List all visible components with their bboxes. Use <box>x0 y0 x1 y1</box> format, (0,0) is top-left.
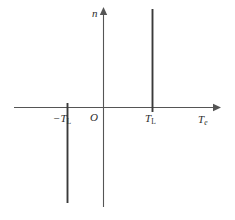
y-axis-arrow-icon <box>100 7 107 15</box>
y-axis-label: n <box>92 8 98 19</box>
x-axis <box>14 104 221 111</box>
x-tick-positive-TL-subscript: L <box>151 117 156 126</box>
figure-container: n O −TL TL Te <box>0 0 235 220</box>
x-tick-negative-TL-symbol: −T <box>53 112 67 124</box>
x-tick-negative-TL-subscript: L <box>67 117 72 126</box>
plot-area <box>0 0 235 220</box>
x-axis-label: Te <box>198 114 207 127</box>
x-tick-label-negative-TL: −TL <box>53 113 71 126</box>
x-axis-arrow-icon <box>213 104 221 111</box>
origin-label: O <box>90 112 98 123</box>
x-tick-label-positive-TL: TL <box>145 113 156 126</box>
x-axis-label-subscript: e <box>204 118 207 127</box>
